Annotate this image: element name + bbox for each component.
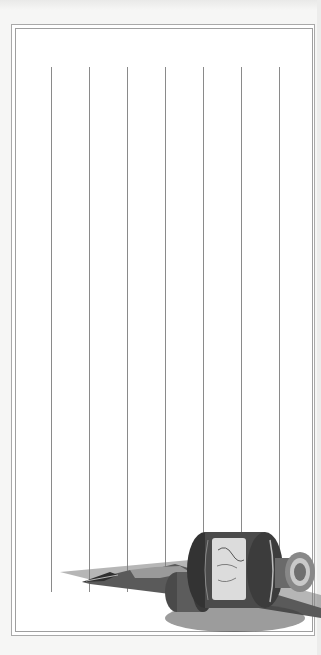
ink-bottle-icon <box>60 520 321 655</box>
writing-rule-line <box>51 67 52 592</box>
writing-rule-line <box>165 67 166 592</box>
writing-rule-line <box>279 67 280 592</box>
top-page-bleed <box>0 0 321 10</box>
writing-rule-line <box>203 67 204 592</box>
writing-rule-line <box>241 67 242 592</box>
writing-rule-line <box>127 67 128 592</box>
writing-rule-line <box>89 67 90 592</box>
